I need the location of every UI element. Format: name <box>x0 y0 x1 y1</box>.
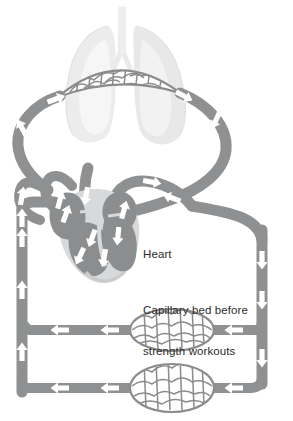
capillary-lower-outline <box>130 364 214 412</box>
heart-valve-right <box>80 210 100 212</box>
circulatory-diagram: Heart Capillary bed before strength work… <box>0 0 293 421</box>
diagram-canvas <box>0 0 293 421</box>
vessel-upper-circuit-joint-left <box>22 324 30 330</box>
trachea <box>118 7 126 57</box>
